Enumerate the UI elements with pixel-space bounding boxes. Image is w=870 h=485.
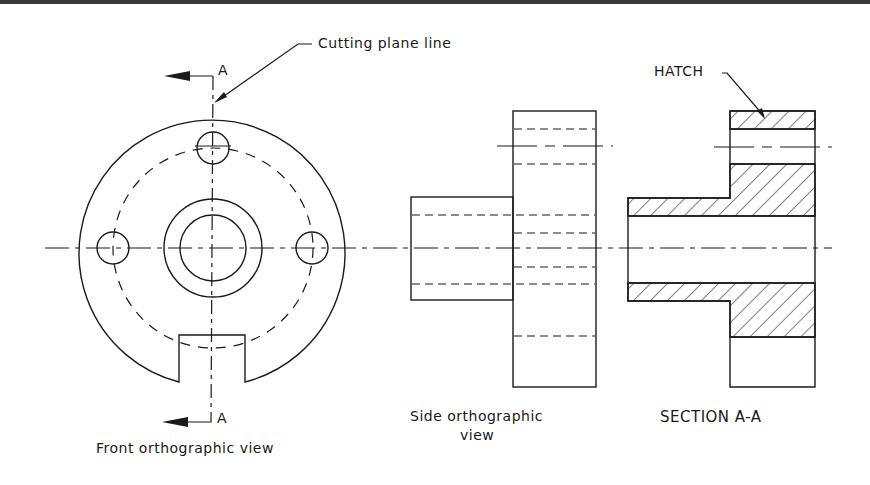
side-flange (513, 111, 596, 387)
section-view-caption: SECTION A-A (660, 408, 762, 426)
section-marker-bottom: A (217, 410, 227, 426)
hatch-label: HATCH (654, 63, 704, 79)
cutting-plane-label: Cutting plane line (318, 35, 451, 51)
side-view-caption-line2: view (460, 427, 494, 443)
front-view-caption: Front orthographic view (96, 440, 274, 456)
cutting-plane-leader (217, 44, 312, 101)
section-arrow-bottom-icon (162, 417, 188, 427)
side-view (411, 111, 613, 387)
hatch-leader (722, 73, 763, 115)
section-view (628, 73, 832, 387)
section-marker-top: A (218, 62, 228, 78)
section-outline (628, 111, 815, 387)
side-view-caption-line1: Side orthographic (410, 408, 543, 424)
section-arrow-top-icon (164, 71, 190, 81)
